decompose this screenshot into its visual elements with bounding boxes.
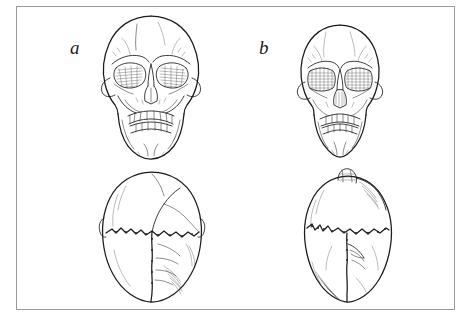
skull-a-superior-view — [96, 166, 208, 306]
illustration-plate: a b — [0, 0, 467, 322]
figure-label-a: a — [70, 38, 80, 57]
skull-b-superior-view — [292, 166, 404, 306]
skull-a-frontal-view — [92, 12, 210, 164]
skull-b-frontal-view — [288, 22, 392, 162]
figure-label-b: b — [259, 38, 269, 57]
